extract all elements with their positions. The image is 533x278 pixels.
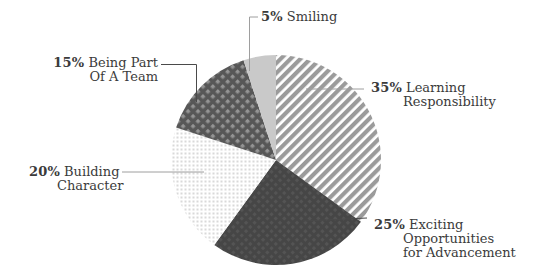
label-learning-responsibility: 35%Learning Responsibility	[371, 81, 496, 109]
label-building-line1: 20%Building	[29, 165, 123, 179]
label-team-text: Being Part	[88, 55, 158, 70]
label-being-part-of-a-team: 15%Being Part Of A Team	[40, 56, 158, 84]
pct-exciting: 25%	[374, 217, 405, 232]
label-building-line2: Character	[29, 179, 123, 193]
label-learning-line1: 35%Learning	[371, 81, 496, 95]
pct-building: 20%	[29, 164, 60, 179]
label-building-character: 20%Building Character	[29, 165, 123, 193]
label-learning-line2: Responsibility	[371, 95, 496, 109]
label-smiling-text: Smiling	[287, 9, 337, 24]
leader-line-team	[161, 65, 197, 103]
label-exciting-line1: 25%Exciting	[374, 218, 516, 232]
pct-team: 15%	[53, 55, 84, 70]
label-exciting-line2: Opportunities	[374, 232, 516, 246]
label-exciting-opportunities: 25%Exciting Opportunities for Advancemen…	[374, 218, 516, 260]
label-building-text: Building	[64, 164, 119, 179]
label-smiling-line1: 5%Smiling	[261, 10, 337, 24]
figure-canvas: 5%Smiling 35%Learning Responsibility 25%…	[0, 0, 533, 278]
label-exciting-line3: for Advancement	[374, 246, 516, 260]
label-smiling: 5%Smiling	[261, 10, 337, 24]
label-team-line1: 15%Being Part	[40, 56, 158, 70]
label-team-line2: Of A Team	[40, 70, 158, 84]
pie-slices-group	[171, 55, 381, 265]
pct-learning: 35%	[371, 80, 402, 95]
label-exciting-text: Exciting	[409, 217, 463, 232]
label-learning-text: Learning	[406, 80, 466, 95]
pct-smiling: 5%	[261, 9, 283, 24]
